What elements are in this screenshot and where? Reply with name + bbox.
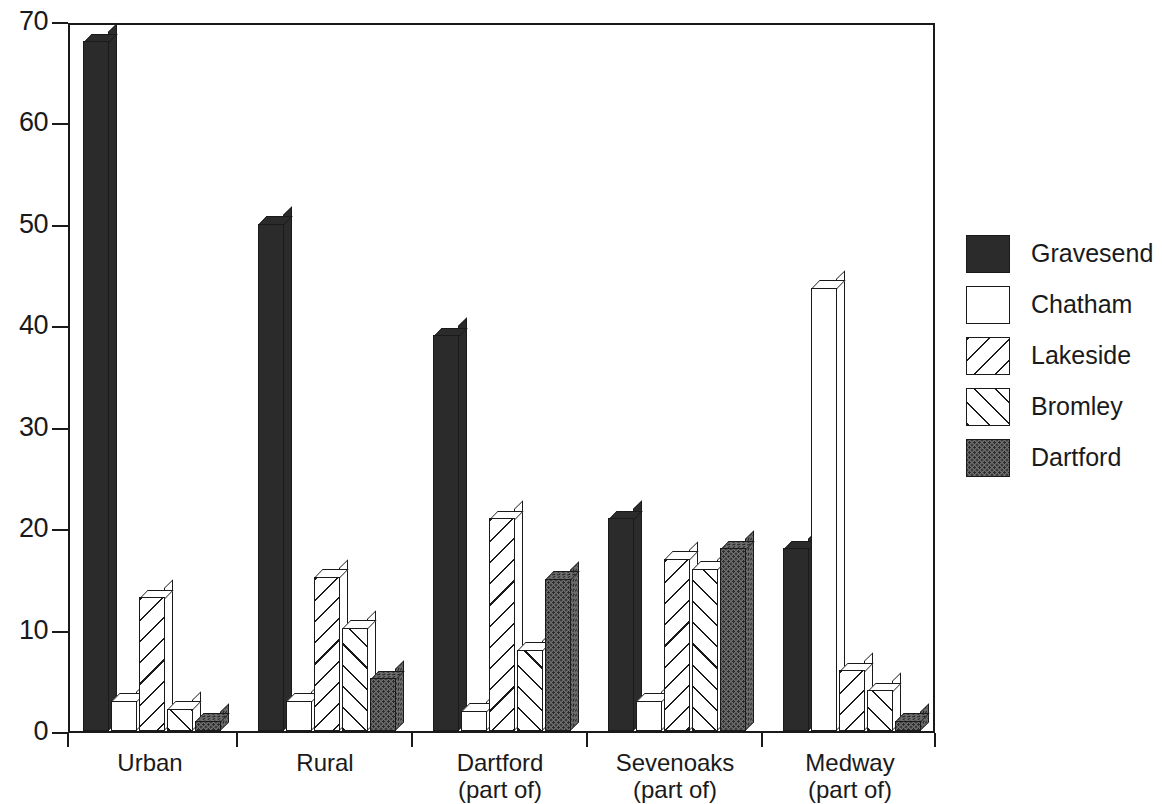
bar-gravesend-dartford-part-of [433, 335, 459, 731]
legend-label: Chatham [1031, 292, 1132, 317]
bar-front-face [608, 518, 634, 731]
legend-label: Lakeside [1031, 343, 1131, 368]
x-axis-tick [586, 733, 588, 747]
bar-front-face [867, 690, 893, 731]
bar-bromley-rural [342, 628, 368, 731]
bar-front-face [895, 721, 921, 731]
bar-chatham-sevenoaks-part-of [636, 701, 662, 731]
bar-front-face [433, 335, 459, 731]
y-axis-tick [52, 225, 68, 227]
bar-front-face [286, 701, 312, 731]
bar-chatham-dartford-part-of [461, 711, 487, 731]
bar-chatham-rural [286, 701, 312, 731]
legend-item: Lakeside [966, 330, 1162, 381]
bar-front-face [489, 518, 515, 731]
y-axis-tick-label: 50 [19, 211, 48, 238]
x-axis-tick [67, 733, 69, 747]
bar-lakeside-sevenoaks-part-of [664, 559, 690, 731]
x-axis-tick [934, 733, 936, 747]
bar-lakeside-dartford-part-of [489, 518, 515, 731]
plot-area [68, 23, 935, 733]
y-axis-tick-label: 40 [19, 312, 48, 339]
x-axis-tick [411, 733, 413, 747]
legend-label: Dartford [1031, 445, 1121, 470]
bar-front-face [545, 579, 571, 731]
bar-front-face [258, 224, 284, 731]
bar-front-face [811, 288, 837, 731]
bar-dartford-urban [195, 721, 221, 731]
y-axis-tick-label: 30 [19, 414, 48, 441]
bar-front-face [111, 701, 137, 731]
y-axis-tick [52, 22, 68, 24]
x-axis-category-label-line1: Medway [740, 750, 960, 777]
bar-bromley-dartford-part-of [517, 650, 543, 731]
legend-item: Bromley [966, 381, 1162, 432]
x-axis-category-label: Medway(part of) [740, 750, 960, 804]
bar-front-face [636, 701, 662, 731]
bar-dartford-medway-part-of [895, 721, 921, 731]
bar-front-face [783, 548, 809, 731]
bar-front-face [139, 597, 165, 731]
bar-front-face [839, 670, 865, 731]
bar-front-face [517, 650, 543, 731]
legend-swatch-bromley [966, 388, 1010, 426]
legend-item: Chatham [966, 279, 1162, 330]
bar-front-face [461, 711, 487, 731]
bar-lakeside-rural [314, 577, 340, 731]
bar-chatham-medway-part-of [811, 288, 837, 731]
y-axis: 010203040506070 [0, 0, 68, 791]
y-axis-tick [52, 732, 68, 734]
bar-gravesend-rural [258, 224, 284, 731]
bar-bromley-urban [167, 709, 193, 731]
bar-front-face [664, 559, 690, 731]
bar-front-face [314, 577, 340, 731]
y-axis-tick-label: 20 [19, 515, 48, 542]
bar-bromley-medway-part-of [867, 690, 893, 731]
legend-item: Dartford [966, 432, 1162, 483]
x-axis-category-label-line2: (part of) [740, 777, 960, 804]
legend-label: Gravesend [1031, 241, 1153, 266]
y-axis-tick [52, 428, 68, 430]
bar-lakeside-medway-part-of [839, 670, 865, 731]
bar-front-face [720, 548, 746, 731]
x-axis-tick [761, 733, 763, 747]
bar-gravesend-medway-part-of [783, 548, 809, 731]
bar-front-face [83, 41, 109, 731]
y-axis-tick [52, 529, 68, 531]
bar-gravesend-urban [83, 41, 109, 731]
y-axis-tick [52, 326, 68, 328]
y-axis-tick-label: 70 [19, 8, 48, 35]
x-axis-tick [236, 733, 238, 747]
y-axis-tick-label: 10 [19, 617, 48, 644]
bar-front-face [167, 709, 193, 731]
legend-label: Bromley [1031, 394, 1123, 419]
y-axis-tick [52, 631, 68, 633]
y-axis-tick-label: 0 [33, 718, 48, 745]
bar-front-face [692, 569, 718, 731]
legend-swatch-lakeside [966, 337, 1010, 375]
legend-item: Gravesend [966, 228, 1162, 279]
bar-gravesend-sevenoaks-part-of [608, 518, 634, 731]
bar-lakeside-urban [139, 597, 165, 731]
bar-chatham-urban [111, 701, 137, 731]
bar-front-face [342, 628, 368, 731]
bar-dartford-dartford-part-of [545, 579, 571, 731]
legend: GravesendChathamLakesideBromleyDartford [966, 228, 1162, 483]
bar-dartford-rural [370, 678, 396, 731]
legend-swatch-gravesend [966, 235, 1010, 273]
bar-front-face [370, 678, 396, 731]
bar-dartford-sevenoaks-part-of [720, 548, 746, 731]
bar-front-face [195, 721, 221, 731]
legend-swatch-chatham [966, 286, 1010, 324]
y-axis-tick [52, 123, 68, 125]
bar-bromley-sevenoaks-part-of [692, 569, 718, 731]
y-axis-tick-label: 60 [19, 109, 48, 136]
legend-swatch-dartford [966, 439, 1010, 477]
